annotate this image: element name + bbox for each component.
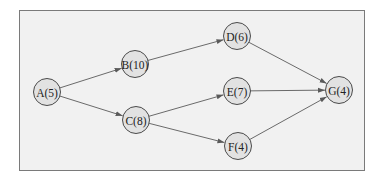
node-f: F(4) [225, 133, 252, 160]
node-a: A(5) [34, 79, 61, 106]
node-label: D(6) [226, 31, 248, 44]
edges-group [60, 40, 327, 143]
edge-c-to-e [149, 95, 224, 116]
edge-a-to-b [60, 68, 122, 88]
edge-e-to-g [250, 90, 325, 91]
node-label: B(10) [122, 59, 149, 72]
network-diagram: A(5)B(10)C(8)D(6)E(7)F(4)G(4) [0, 0, 380, 181]
node-g: G(4) [326, 77, 353, 104]
node-c: C(8) [123, 107, 150, 134]
node-label: C(8) [125, 115, 146, 128]
nodes-group: A(5)B(10)C(8)D(6)E(7)F(4)G(4) [34, 23, 353, 160]
node-label: F(4) [228, 141, 248, 154]
node-label: A(5) [36, 87, 58, 100]
node-label: E(7) [227, 86, 248, 99]
edge-b-to-d [148, 40, 223, 61]
node-label: G(4) [328, 85, 350, 98]
edge-c-to-f [149, 123, 224, 142]
node-e: E(7) [224, 78, 251, 105]
edge-f-to-g [250, 97, 327, 140]
edge-d-to-g [249, 42, 327, 83]
node-d: D(6) [224, 23, 251, 50]
edge-a-to-c [60, 96, 123, 116]
node-b: B(10) [122, 51, 149, 78]
